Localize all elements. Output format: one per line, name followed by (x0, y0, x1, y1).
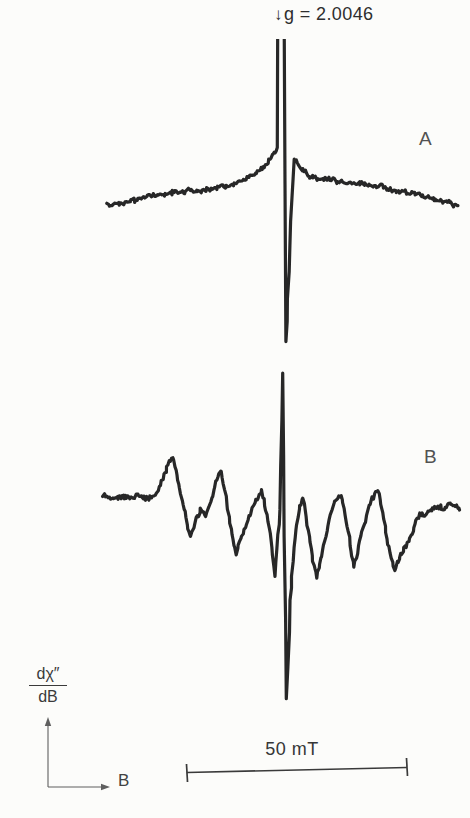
scale-bar-left-tick (187, 764, 188, 782)
spectra-canvas (0, 0, 470, 818)
y-axis-arrow-head (45, 717, 51, 726)
down-arrow-icon: ↓ (274, 5, 283, 25)
scale-bar-right-tick (407, 758, 408, 776)
g-value-label: g = 2.0046 (284, 4, 374, 25)
trace-b (103, 373, 460, 699)
scale-bar-line (187, 768, 407, 773)
trace-a (107, 24, 458, 342)
x-axis-label: B (118, 771, 129, 791)
trace-a-label: A (419, 128, 432, 150)
fraction-bar (29, 685, 67, 686)
y-axis-label: dχ″ dB (27, 665, 69, 707)
y-axis-denominator: dB (38, 688, 58, 705)
axis-arrows (45, 717, 110, 790)
scale-bar-label: 50 mT (237, 739, 347, 760)
g-marker: ↓ g = 2.0046 (274, 4, 374, 25)
y-axis-numerator: dχ″ (37, 665, 60, 682)
scale-bar (187, 758, 408, 782)
x-axis-arrow-head (101, 784, 110, 790)
trace-b-label: B (424, 446, 437, 468)
epr-figure: ↓ g = 2.0046 A B 50 mT dχ″ dB B (0, 0, 470, 818)
